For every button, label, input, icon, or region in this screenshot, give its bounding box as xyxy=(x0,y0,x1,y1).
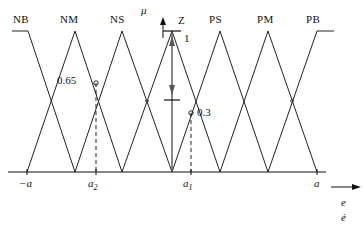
mf-curve-nm xyxy=(27,31,122,172)
x-tick-subscript: 2 xyxy=(94,183,98,192)
mf-label-pm: PM xyxy=(257,14,274,25)
x-tick-label-a2: a2 xyxy=(88,178,98,192)
mf-curve-ns xyxy=(75,31,172,172)
x-axis-symbol-e: e xyxy=(341,197,346,208)
x-tick-subscript: 1 xyxy=(189,183,193,192)
mf-label-pb: PB xyxy=(306,14,320,25)
mf-curve-nb xyxy=(12,31,75,172)
x-tick-label-a: a xyxy=(314,178,320,189)
membership-value-065: 0.65 xyxy=(57,75,76,86)
e-axis-arrowhead xyxy=(352,184,361,190)
x-tick-label-a1: a1 xyxy=(183,178,193,192)
mf-curve-ps xyxy=(172,31,268,172)
mu-axis-arrowhead xyxy=(160,17,166,25)
mf-label-nm: NM xyxy=(60,14,78,25)
mf-curve-z xyxy=(122,31,220,172)
x-axis-symbol-edot: ė xyxy=(341,212,346,223)
scale-bar-lower-arrowhead xyxy=(169,85,175,95)
scale-value-one: 1 xyxy=(184,33,190,44)
x-tick-text: a xyxy=(314,177,320,189)
x-tick-text: −a xyxy=(19,177,32,189)
mf-label-ps: PS xyxy=(209,14,222,25)
membership-function-figure: NB NM NS Z PS PM PB μ 1 0.65 0.3 −a a2 a… xyxy=(0,0,363,226)
mf-label-ns: NS xyxy=(110,14,125,25)
membership-value-03: 0.3 xyxy=(197,107,211,118)
mf-label-nb: NB xyxy=(13,14,29,25)
mu-axis-symbol: μ xyxy=(141,5,147,16)
fuzzy-membership-plot xyxy=(0,0,363,226)
x-tick-label-minus-a: −a xyxy=(19,178,32,189)
mf-curve-pm xyxy=(220,31,317,172)
mf-label-z: Z xyxy=(178,15,185,26)
mf-curve-pb xyxy=(268,31,334,172)
